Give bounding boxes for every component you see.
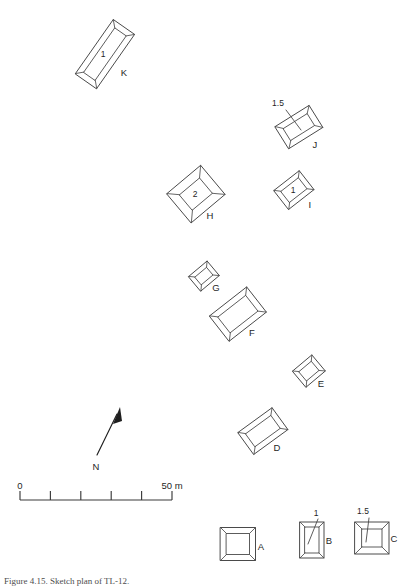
scale-bar-ticks [20,491,172,500]
pit-inner-outline-E [299,361,319,380]
north-arrow-label: N [93,461,100,472]
pit-bevel-C-1 [382,522,389,529]
structure-label-K: K [121,67,128,78]
pit-bevel-G-2 [213,275,219,276]
structure-label-F: F [249,327,255,338]
structure-D: D [238,408,288,455]
pit-bevel-B-1 [319,522,324,527]
structure-E: E [293,355,326,389]
depth-leader-J [286,110,301,130]
structure-A: A [221,528,265,561]
structure-label-E: E [318,378,325,389]
structure-J: J1.5 [272,98,323,150]
depth-leader-B [308,519,318,544]
pit-bevel-H-3 [191,210,192,223]
pit-bevel-E-1 [311,355,312,361]
structure-C: C1.5 [355,506,398,554]
pit-bevel-H-1 [200,165,201,178]
pit-bevel-B-3 [300,553,305,558]
plan-drawing-canvas: K1J1.5H2I1GFEDAB1C1.5 N 0 50 m [0,0,401,588]
scale-bar-end-label: 50 m [161,480,182,491]
structure-label-A: A [258,541,265,552]
structure-F: F [210,287,267,341]
pit-bevel-C-0 [355,522,362,529]
pit-bevel-G-1 [207,261,208,267]
pit-bevel-E-3 [306,381,307,387]
depth-label-J: 1.5 [272,98,284,108]
structure-K: K1 [75,20,134,89]
pit-bevel-E-2 [319,370,325,371]
structure-G: G [189,261,220,293]
site-plan-figure: K1J1.5H2I1GFEDAB1C1.5 N 0 50 m Figure 4.… [0,0,401,588]
scale-bar: 0 50 m [17,480,182,500]
pit-bevel-C-3 [355,547,362,554]
scale-bar-start-label: 0 [17,480,22,491]
north-arrow-head [113,407,122,424]
depth-label-K: 1 [101,49,106,59]
pit-bevel-E-0 [293,371,299,372]
depth-label-C: 1.5 [357,506,369,516]
structure-label-H: H [206,210,213,221]
pit-bevel-A-3 [221,555,227,561]
pit-bevel-H-0 [167,194,180,195]
pit-bevel-H-2 [212,193,225,194]
north-arrow-shaft [97,414,117,455]
pit-inner-outline-B [305,527,319,553]
structure-I: I1 [274,171,314,210]
structure-label-C: C [390,533,397,544]
pit-bevel-B-0 [300,522,305,527]
figure-caption: Figure 4.15. Sketch plan of TL-12. [4,576,396,587]
structure-label-G: G [212,282,220,293]
structure-label-J: J [313,139,318,150]
pit-bevel-A-2 [250,555,256,561]
pit-bevel-A-0 [221,528,227,534]
pit-inner-outline-C [362,529,382,547]
structure-label-B: B [326,535,333,546]
pit-inner-outline-G [195,267,213,284]
depth-label-I: 1 [291,185,296,195]
structure-label-D: D [273,442,280,453]
pit-outline-F [210,287,267,341]
structures-layer: K1J1.5H2I1GFEDAB1C1.5 [75,20,397,561]
structure-label-I: I [309,199,312,210]
depth-label-H: 2 [193,189,198,199]
pit-inner-outline-A [227,534,250,555]
pit-bevel-C-2 [382,547,389,554]
structure-H: H2 [167,165,225,222]
structure-B: B1 [300,508,332,558]
north-arrow: N [93,407,122,472]
pit-bevel-A-1 [250,528,256,534]
pit-bevel-G-0 [189,276,195,277]
pit-bevel-B-2 [319,553,324,558]
pit-bevel-G-3 [201,285,202,291]
depth-label-B: 1 [314,508,319,518]
